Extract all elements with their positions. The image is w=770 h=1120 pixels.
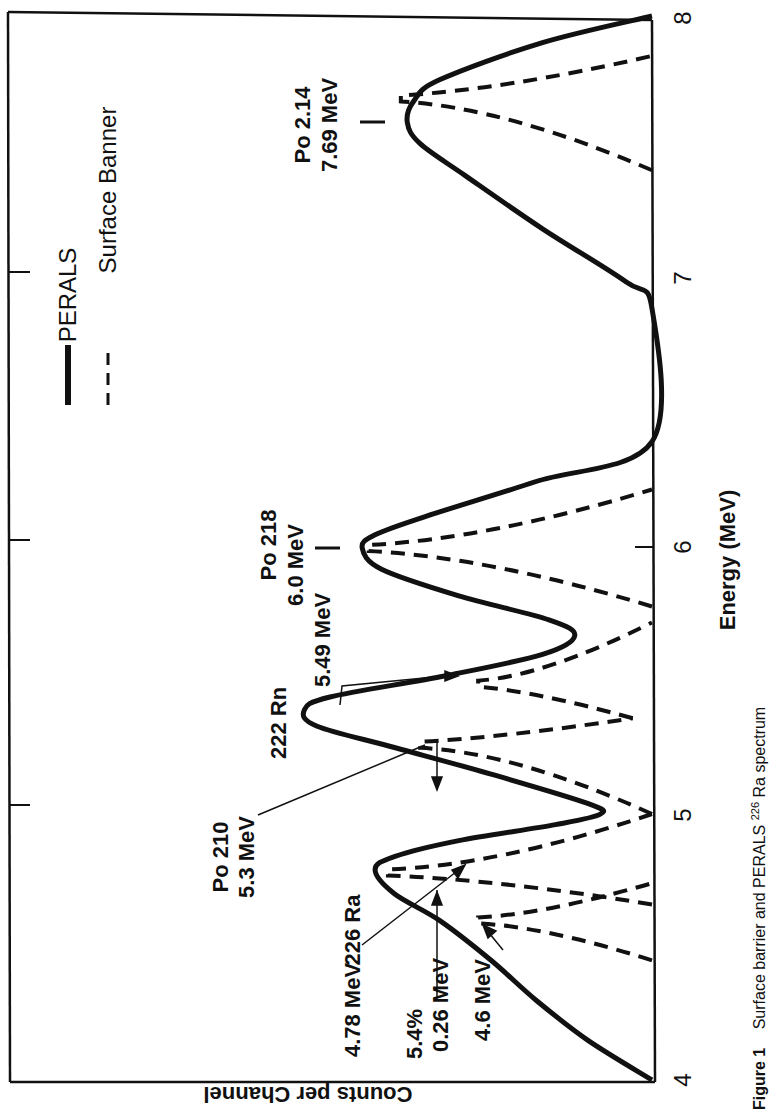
x-tick-labels: 4 5 6 7 8 [669, 11, 696, 1086]
4-6mev-arrowhead [483, 925, 496, 938]
x-tick-label-5: 5 [669, 808, 696, 821]
annotation-rn222-name: 222 Rn [266, 687, 291, 759]
surface-banner-peak [478, 622, 652, 718]
annotation-fwhm-energy: 0.26 MeV [428, 958, 453, 1052]
top-border [8, 12, 652, 20]
annotations: Po 2.14 7.69 MeV Po 218 6.0 MeV 222 Rn 5… [208, 78, 495, 1059]
x-tick-label-8: 8 [669, 11, 696, 24]
ra226-arrowhead [452, 865, 465, 878]
surface-banner-peak [369, 489, 652, 606]
annotation-ra226-energy: 4.78 MeV [340, 963, 365, 1057]
annotation-po214-name: Po 2.14 [290, 86, 315, 164]
x-tick-label-6: 6 [669, 540, 696, 553]
annotation-fwhm-percent: 5.4% [402, 1009, 427, 1059]
legend-label-surface-banner: Surface Banner [94, 107, 121, 274]
spectrum-figure: 4 5 6 7 8 Energy (MeV) Counts per Channe… [0, 0, 770, 1120]
annotation-po218-energy: 6.0 MeV [283, 524, 308, 606]
annotation-4-6mev: 4.6 MeV [470, 959, 495, 1041]
caption-text-after: Ra spectrum [751, 707, 768, 798]
y-axis-label: Counts per Channel [203, 1082, 412, 1107]
x-tick-label-4: 4 [669, 1073, 696, 1086]
caption-superscript: 226 [749, 802, 761, 820]
annotation-po210-energy: 5.3 MeV [234, 816, 259, 898]
annotation-rn222-energy: 5.49 MeV [310, 593, 335, 687]
annotation-po214-energy: 7.69 MeV [317, 78, 342, 172]
left-border [8, 12, 10, 1082]
energy-axis [652, 20, 655, 1082]
fwhm-top-arrowhead [432, 892, 442, 905]
x-tick-label-7: 7 [669, 271, 696, 284]
legend: PERALS Surface Banner [54, 107, 121, 405]
surface-banner-peak [388, 814, 652, 904]
surface-banner-peak [478, 883, 652, 960]
annotation-po210-name: Po 210 [208, 822, 233, 893]
caption-figure-label: Figure 1 [751, 1048, 768, 1110]
figure-caption: Figure 1 Surface barrier and PERALS 226 … [749, 707, 768, 1110]
surface-banner-peak [401, 56, 652, 170]
annotation-po218-name: Po 218 [256, 510, 281, 581]
fwhm-bottom-arrowhead [432, 777, 442, 790]
caption-text: Surface barrier and PERALS [751, 820, 768, 1029]
legend-label-perals: PERALS [54, 248, 81, 343]
x-axis-label: Energy (MeV) [715, 490, 740, 631]
annotation-ra226-name: 226 Ra [340, 894, 365, 966]
